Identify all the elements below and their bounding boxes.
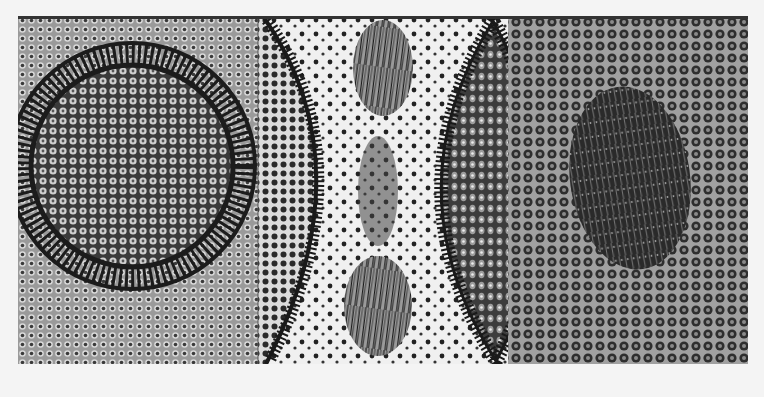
middle-panel: [258, 16, 541, 364]
left-panel: [18, 16, 258, 364]
upper-hair-tuft: [353, 20, 413, 116]
right-panel: [493, 16, 748, 364]
lower-hair-tuft: [344, 256, 412, 356]
relief-artwork: [18, 16, 748, 364]
